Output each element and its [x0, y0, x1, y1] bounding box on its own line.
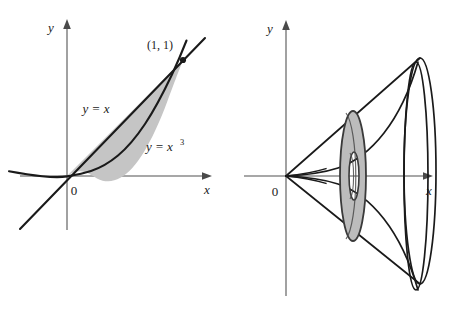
solid-svg: y x 0 — [230, 0, 463, 309]
line-y-equals-x — [20, 38, 205, 229]
left-origin-label: 0 — [71, 183, 78, 198]
y-axis — [63, 19, 71, 230]
left-x-axis-label: x — [203, 182, 210, 197]
cone-end-ellipse — [404, 58, 436, 284]
left-diagram-panel: y x 0 (1, 1) y = x y = x 3 — [0, 0, 240, 309]
left-y-axis-label: y — [46, 20, 54, 35]
region-svg: y x 0 (1, 1) y = x y = x 3 — [0, 0, 240, 309]
right-y-axis-label: y — [265, 21, 273, 36]
cubic-label: y = x 3 — [144, 137, 184, 154]
right-y-axis — [282, 20, 290, 296]
cubic-label-exponent: 3 — [180, 137, 184, 147]
cubic-label-base: y = x — [144, 139, 173, 154]
right-diagram-panel: y x 0 — [230, 0, 463, 309]
intersection-point-label: (1, 1) — [147, 38, 173, 52]
right-x-axis-label: x — [425, 183, 432, 198]
line-label: y = x — [81, 101, 110, 116]
intersection-point-marker — [180, 57, 186, 63]
right-origin-label: 0 — [272, 184, 279, 199]
math-figure: y x 0 (1, 1) y = x y = x 3 — [0, 0, 463, 309]
